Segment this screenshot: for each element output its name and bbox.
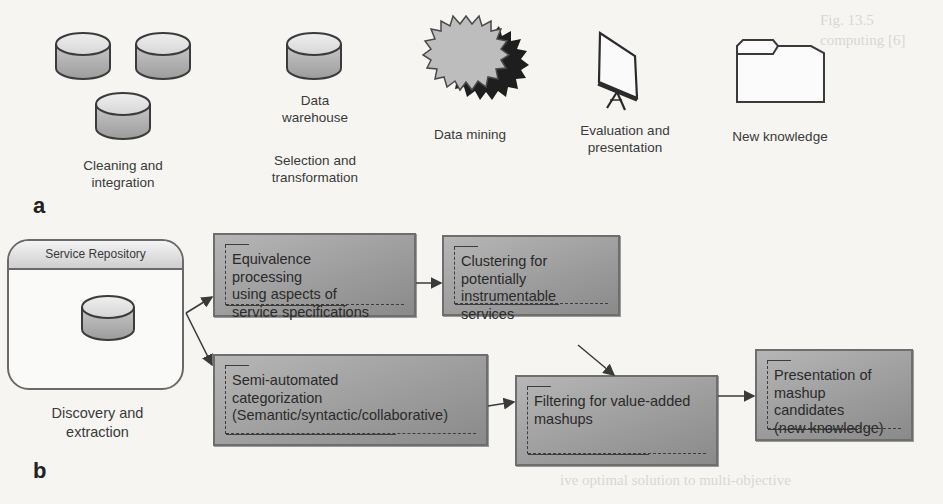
arrow-clustering-to-filtering (578, 345, 614, 375)
arrow-repo-to-equivalence (186, 297, 212, 313)
flow-arrows (0, 0, 943, 504)
arrow-categorization-to-filtering (488, 402, 514, 406)
arrow-repo-to-categorization (186, 313, 212, 365)
bleed-through-text: ive optimal solution to multi-objective (560, 470, 791, 490)
